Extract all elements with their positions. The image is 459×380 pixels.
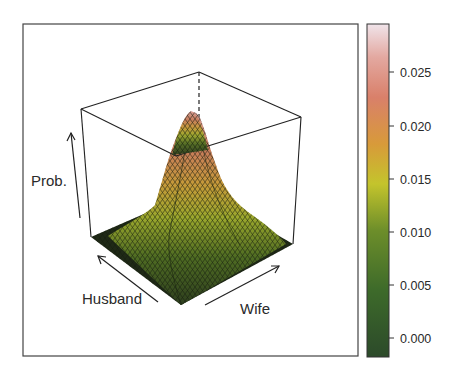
y-axis-label: Wife bbox=[240, 300, 270, 317]
z-axis-label: Prob. bbox=[31, 172, 67, 189]
colorbar-tick-label: 0.025 bbox=[400, 66, 431, 80]
x-axis-label: Husband bbox=[82, 290, 142, 307]
colorbar bbox=[367, 24, 389, 357]
colorbar-tick-label: 0.015 bbox=[400, 173, 431, 187]
colorbar-tick-label: 0.010 bbox=[400, 226, 431, 240]
colorbar-ticks bbox=[389, 72, 394, 338]
colorbar-tick-label: 0.000 bbox=[400, 332, 431, 346]
figure: Prob. Husband Wife 0.025 0.020 0.015 0.0… bbox=[0, 0, 459, 380]
z-axis-arrow bbox=[71, 133, 80, 218]
colorbar-tick-label: 0.005 bbox=[400, 279, 431, 293]
colorbar-tick-label: 0.020 bbox=[400, 120, 431, 134]
